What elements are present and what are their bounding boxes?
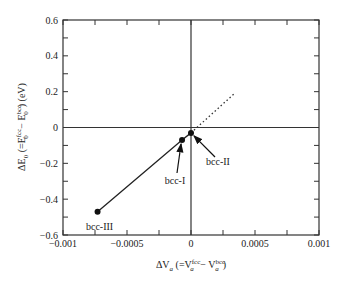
data-point-bcc-I bbox=[179, 137, 185, 143]
y-tick-label: 0 bbox=[53, 122, 58, 133]
data-series bbox=[95, 93, 235, 214]
x-axis-title: ΔVa (=Vfcca − Vbcca) bbox=[156, 258, 226, 273]
x-tick-label: −0.0005 bbox=[110, 238, 143, 249]
y-tick-label: 0.2 bbox=[46, 86, 59, 97]
arrow-bcc-I bbox=[177, 144, 181, 173]
label-bcc-III: bcc-III bbox=[86, 221, 113, 232]
label-bcc-I: bcc-I bbox=[165, 175, 186, 186]
x-tick-label: 0 bbox=[189, 238, 194, 249]
data-point-bcc-II bbox=[188, 130, 194, 136]
y-tick-label: 0.4 bbox=[46, 50, 59, 61]
tick-labels: −0.001−0.000500.00050.001−0.6−0.4−0.200.… bbox=[40, 15, 330, 250]
plot-frame bbox=[63, 20, 319, 235]
y-tick-label: 0.6 bbox=[46, 15, 59, 26]
y-tick-label: −0.4 bbox=[40, 194, 58, 205]
annotations: bcc-IIIbcc-Ibcc-II bbox=[86, 136, 230, 232]
y-tick-label: −0.6 bbox=[40, 230, 58, 241]
arrow-bcc-II bbox=[194, 136, 215, 157]
chart: −0.001−0.000500.00050.001−0.6−0.4−0.200.… bbox=[0, 0, 347, 286]
y-axis-title: ΔE0 (=Efcc0 − Ebcc0) (eV) bbox=[15, 83, 30, 171]
x-tick-label: 0.001 bbox=[308, 238, 331, 249]
label-bcc-II: bcc-II bbox=[206, 156, 230, 167]
data-point-bcc-III bbox=[95, 209, 101, 215]
x-tick-label: 0.0005 bbox=[241, 238, 269, 249]
y-tick-label: −0.2 bbox=[40, 158, 58, 169]
